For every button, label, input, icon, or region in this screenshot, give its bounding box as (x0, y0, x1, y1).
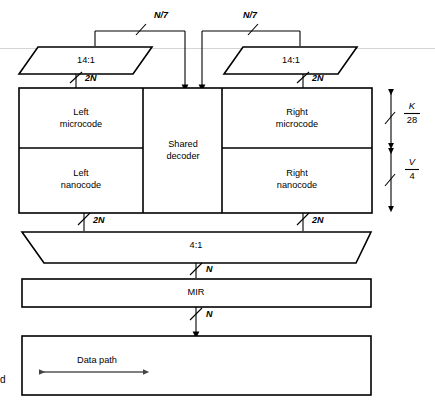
store-output-right-label: 2N (311, 215, 324, 225)
right-microcode-line2: microcode (276, 119, 318, 129)
shared-decoder-line2: decoder (166, 151, 199, 161)
data-path-block[interactable] (22, 336, 371, 395)
shared-decoder-line1: Shared (168, 139, 198, 149)
mir-output-label: N (206, 309, 213, 319)
right-mux-output-label: 2N (311, 73, 324, 83)
mux-4to1-label: 4:1 (190, 240, 203, 250)
nano-height-denominator: 4 (409, 170, 414, 181)
mux-4to1-output-bus (190, 263, 202, 278)
data-path-label: Data path (77, 355, 117, 365)
left-nanocode-line2: nanocode (61, 180, 101, 190)
mir-label: MIR (188, 287, 205, 297)
right-microcode-line1: Right (286, 107, 308, 117)
diagram-canvas: N/7 N/7 14:1 2N 14:1 2N (0, 0, 435, 403)
mux-4to1-output-label: N (206, 264, 213, 274)
right-nanocode-line1: Right (286, 168, 308, 178)
dimension-microcode-height (385, 92, 395, 146)
dimension-microcode-fraction: K 28 (404, 100, 420, 125)
store-output-right-bus (297, 213, 309, 231)
microcode-architecture-diagram: N/7 N/7 14:1 2N 14:1 2N (0, 0, 435, 403)
right-n7-label: N/7 (243, 10, 258, 20)
micro-height-numerator: K (409, 100, 416, 111)
right-nanocode-line2: nanocode (277, 180, 317, 190)
left-microcode-line1: Left (73, 107, 89, 117)
nano-height-numerator: V (409, 156, 416, 167)
mux-14to1-right-label: 14:1 (282, 55, 300, 65)
left-mux-output-label: 2N (84, 73, 97, 83)
left-microcode-line2: microcode (60, 119, 102, 129)
clipped-caption-glyph: d (0, 374, 6, 385)
dimension-nanocode-fraction: V 4 (405, 156, 419, 181)
left-n7-label: N/7 (154, 10, 169, 20)
left-nanocode-line1: Left (73, 168, 89, 178)
store-output-left-label: 2N (92, 215, 105, 225)
dimension-nanocode-height (385, 151, 395, 209)
micro-height-denominator: 28 (407, 114, 417, 125)
mir-output-bus (190, 307, 202, 335)
mux-14to1-left-label: 14:1 (77, 55, 95, 65)
store-output-left-bus (78, 213, 90, 231)
